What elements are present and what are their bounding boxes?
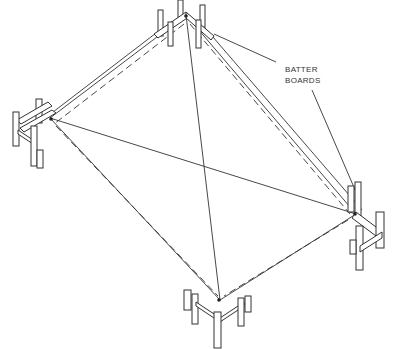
label-line-2: BOARDS: [285, 75, 321, 86]
batter-board-right: [348, 182, 384, 270]
string-lines: [40, 15, 362, 300]
batter-boards-label: BATTER BOARDS: [285, 64, 321, 86]
label-line-1: BATTER: [285, 64, 321, 75]
batter-board-left: [13, 99, 56, 168]
leader-lines: [214, 34, 356, 192]
batter-boards-diagram: [0, 0, 394, 349]
diagonals: [50, 15, 356, 300]
batter-board-bottom: [184, 290, 251, 348]
